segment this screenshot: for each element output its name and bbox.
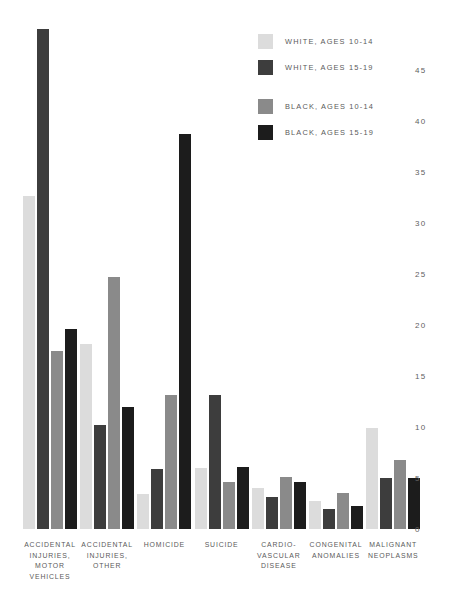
x-axis-category-line: NEOPLASMS [363, 551, 423, 562]
x-axis-category-line: ACCIDENTAL [20, 540, 80, 551]
bar [151, 469, 163, 529]
x-axis-category-line: ACCIDENTAL [77, 540, 137, 551]
x-axis-category-line: INJURIES, [77, 551, 137, 562]
bar [351, 506, 363, 529]
bar [252, 488, 264, 529]
legend-swatch-icon [258, 34, 273, 49]
bar [51, 351, 63, 530]
y-axis-tick-label: 5 [415, 474, 445, 483]
legend-swatch-icon [258, 99, 273, 114]
bar [394, 460, 406, 529]
x-axis-category-line: VEHICLES [20, 572, 80, 583]
legend-item-label: BLACK, AGES 10-14 [285, 102, 374, 111]
x-axis-category-line: HOMICIDE [134, 540, 194, 551]
legend-swatch-icon [258, 60, 273, 75]
y-axis-tick-label: 20 [415, 321, 445, 330]
x-axis-category-label: CARDIO-VASCULARDISEASE [249, 540, 309, 572]
bar [23, 196, 35, 529]
bar [137, 494, 149, 529]
y-axis-tick-label: 40 [415, 117, 445, 126]
bar [122, 407, 134, 529]
y-axis-tick-label: 45 [415, 66, 445, 75]
x-axis-category-label: CONGENITALANOMALIES [306, 540, 366, 561]
bar [323, 509, 335, 529]
bar [179, 134, 191, 529]
bar [165, 395, 177, 529]
x-axis-category-label: ACCIDENTALINJURIES,OTHER [77, 540, 137, 572]
y-axis-tick-label: 10 [415, 423, 445, 432]
y-axis-tick-label: 30 [415, 219, 445, 228]
bar [294, 482, 306, 529]
bar [380, 478, 392, 529]
bar [266, 497, 278, 529]
x-axis-category-line: DISEASE [249, 561, 309, 572]
x-axis-category-line: INJURIES, [20, 551, 80, 562]
bar [223, 482, 235, 529]
bar [65, 329, 77, 529]
bar [237, 467, 249, 529]
x-axis-category-line: CARDIO- [249, 540, 309, 551]
bar [337, 493, 349, 529]
legend-swatch-icon [258, 125, 273, 140]
bar [280, 477, 292, 529]
y-axis: 051015202530354045 [415, 0, 461, 597]
bar [366, 428, 378, 529]
y-axis-tick-label: 25 [415, 270, 445, 279]
y-axis-tick-label: 15 [415, 372, 445, 381]
x-axis-category-label: MALIGNANTNEOPLASMS [363, 540, 423, 561]
x-axis-category-line: MALIGNANT [363, 540, 423, 551]
x-axis-category-line: MOTOR [20, 561, 80, 572]
x-axis-category-line: ANOMALIES [306, 551, 366, 562]
legend-item-label: BLACK, AGES 15-19 [285, 128, 374, 137]
x-axis: ACCIDENTALINJURIES,MOTORVEHICLESACCIDENT… [0, 540, 415, 597]
x-axis-category-label: ACCIDENTALINJURIES,MOTORVEHICLES [20, 540, 80, 582]
bar-chart: WHITE, AGES 10-14WHITE, AGES 15-19BLACK,… [0, 0, 461, 597]
bar [94, 425, 106, 529]
bar [37, 29, 49, 529]
x-axis-category-line: SUICIDE [192, 540, 252, 551]
x-axis-category-label: HOMICIDE [134, 540, 194, 551]
y-axis-tick-label: 0 [415, 525, 445, 534]
x-axis-category-label: SUICIDE [192, 540, 252, 551]
y-axis-tick-label: 35 [415, 168, 445, 177]
bar [80, 344, 92, 529]
bar [195, 468, 207, 529]
x-axis-category-line: OTHER [77, 561, 137, 572]
bar [108, 277, 120, 529]
legend-item-label: WHITE, AGES 10-14 [285, 37, 374, 46]
x-axis-category-line: VASCULAR [249, 551, 309, 562]
bar [309, 501, 321, 529]
bar [209, 395, 221, 529]
x-axis-category-line: CONGENITAL [306, 540, 366, 551]
legend-item-label: WHITE, AGES 15-19 [285, 63, 374, 72]
